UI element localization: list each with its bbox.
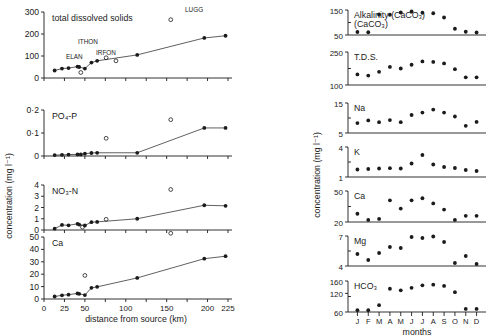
left-3-data-point bbox=[53, 227, 57, 231]
left-3-y-tick-label: 2 bbox=[34, 203, 39, 213]
right-6-data-point bbox=[442, 240, 446, 244]
month-label: J bbox=[421, 317, 425, 326]
left-1-data-point bbox=[224, 34, 228, 38]
left-4-data-point bbox=[60, 293, 64, 297]
figure-root: 0100200300total dissolved solids00·10·2P… bbox=[0, 0, 494, 336]
left-1-y-tick-label: 200 bbox=[25, 29, 40, 39]
right-5-y-tick-label: 20 bbox=[334, 219, 343, 228]
left-3-data-point bbox=[202, 203, 206, 207]
right-7-y-tick-label: 160 bbox=[330, 278, 344, 287]
right-3-data-point bbox=[366, 119, 370, 123]
left-2-y-tick-label: 0·1 bbox=[27, 128, 40, 138]
right-6-data-point bbox=[453, 261, 457, 265]
right-2-title: T.D.S. bbox=[354, 52, 378, 62]
left-4-data-point bbox=[95, 285, 99, 289]
left-2-data-point bbox=[60, 153, 64, 157]
left-4-tributary-point bbox=[83, 274, 87, 278]
left-4-data-point bbox=[224, 254, 228, 258]
right-1-data-point bbox=[399, 11, 403, 15]
right-2-data-point bbox=[377, 70, 381, 74]
right-3-data-point bbox=[399, 120, 403, 124]
left-1-data-point bbox=[135, 53, 139, 57]
right-6-data-point bbox=[366, 258, 370, 262]
right-4-data-point bbox=[410, 162, 414, 166]
left-4-y-tick-label: 50 bbox=[29, 232, 39, 242]
right-5-data-point bbox=[399, 207, 403, 211]
left-3-tributary-point bbox=[104, 217, 108, 221]
left-1-data-point bbox=[90, 61, 94, 65]
left-1-tributary-point bbox=[169, 18, 173, 22]
left-1-y-tick-label: 0 bbox=[34, 73, 39, 83]
right-2-data-point bbox=[410, 63, 414, 67]
right-1-data-point bbox=[475, 31, 479, 35]
left-3-data-point bbox=[95, 220, 99, 224]
left-y-axis-title: concentration (mg l⁻¹) bbox=[4, 153, 14, 239]
month-label: J bbox=[410, 317, 414, 326]
right-7-title: HCO₃ bbox=[354, 281, 378, 291]
right-5-title: Ca bbox=[354, 191, 365, 201]
left-4-data-point bbox=[53, 295, 57, 299]
right-6-data-point bbox=[464, 254, 468, 258]
month-label: J bbox=[356, 317, 360, 326]
left-x-tick-label: 150 bbox=[160, 304, 174, 313]
right-6-data-point bbox=[356, 252, 360, 256]
left-2-data-point bbox=[67, 153, 71, 157]
right-6-data-point bbox=[475, 262, 479, 266]
right-2-y-tick-label: 100 bbox=[330, 82, 344, 91]
right-1-title-sub: (CaCO₃) bbox=[354, 19, 388, 29]
right-2-data-point bbox=[356, 73, 360, 77]
left-2-title: PO₄-P bbox=[52, 111, 77, 121]
left-x-tick-label: 25 bbox=[60, 304, 69, 313]
right-3-data-point bbox=[475, 120, 479, 124]
right-6-data-point bbox=[377, 251, 381, 255]
right-2-data-point bbox=[399, 67, 403, 71]
month-label: A bbox=[387, 317, 393, 326]
left-3-data-point bbox=[77, 223, 81, 227]
right-3-data-point bbox=[421, 111, 425, 115]
right-5-data-point bbox=[431, 202, 435, 206]
left-2-data-point bbox=[76, 152, 80, 156]
left-4-data-point bbox=[90, 286, 94, 290]
left-2-series-line bbox=[55, 128, 226, 155]
left-4-data-point bbox=[83, 293, 87, 297]
left-4-data-point bbox=[67, 293, 71, 297]
left-x-tick-label: 0 bbox=[42, 304, 47, 313]
month-label: M bbox=[398, 317, 404, 326]
left-2-data-point bbox=[135, 151, 139, 155]
left-3-title: NO₃-N bbox=[52, 186, 78, 196]
left-x-tick-label: 100 bbox=[119, 304, 133, 313]
left-4-series-line bbox=[55, 256, 226, 296]
right-7-data-point bbox=[453, 290, 457, 294]
left-2-tributary-point bbox=[169, 118, 173, 122]
right-5-data-point bbox=[377, 217, 381, 221]
left-2-y-tick-label: 0·2 bbox=[27, 105, 40, 115]
right-1-data-point bbox=[431, 11, 435, 15]
right-3-title: Na bbox=[354, 103, 365, 113]
right-4-data-point bbox=[366, 167, 370, 171]
left-x-axis-title: distance from source (km) bbox=[85, 314, 187, 324]
right-4-data-point bbox=[356, 168, 360, 172]
left-1-tributary-point bbox=[79, 71, 83, 75]
right-5-data-point bbox=[464, 214, 468, 218]
right-4-title: K bbox=[354, 147, 360, 157]
month-label: N bbox=[463, 317, 468, 326]
right-6-data-point bbox=[388, 245, 392, 249]
right-4-data-point bbox=[442, 165, 446, 169]
right-1-data-point bbox=[366, 30, 370, 34]
right-4-data-point bbox=[421, 153, 425, 157]
month-label: M bbox=[376, 317, 382, 326]
left-3-y-tick-label: 4 bbox=[34, 180, 39, 190]
right-7-data-point bbox=[366, 308, 370, 312]
right-2-data-point bbox=[421, 60, 425, 64]
left-3-data-point bbox=[60, 223, 64, 227]
right-1-data-point bbox=[453, 27, 457, 31]
right-6-data-point bbox=[399, 246, 403, 250]
right-6-data-point bbox=[421, 236, 425, 240]
right-1-data-point bbox=[356, 30, 360, 34]
left-1-y-tick-label: 100 bbox=[25, 51, 40, 61]
right-5-data-point bbox=[356, 212, 360, 216]
right-6-data-point bbox=[431, 235, 435, 239]
right-6-title: Mg bbox=[354, 236, 366, 246]
right-1-y-tick-label: 50 bbox=[334, 32, 343, 41]
left-3-data-point bbox=[224, 204, 228, 208]
